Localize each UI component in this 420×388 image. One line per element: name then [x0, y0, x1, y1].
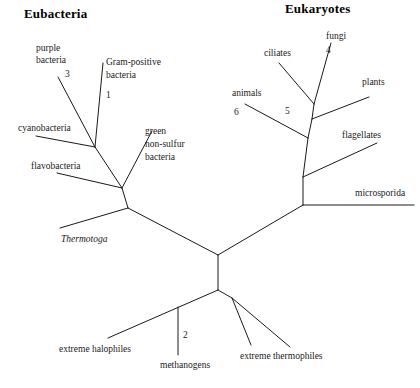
- branch-number-1: 1: [106, 90, 111, 100]
- branch-cyanobacteria: [36, 136, 95, 147]
- branch-thermotoga: [60, 208, 128, 228]
- branch-root-to-eukaryotes: [218, 205, 303, 255]
- branch-number-4: 4: [326, 45, 331, 55]
- branch-number-6: 6: [234, 107, 239, 117]
- label-plants: plants: [362, 77, 385, 89]
- label-animals: animals: [232, 88, 262, 100]
- label-purple-bacteria-line1: purple: [36, 43, 60, 55]
- branch-plants: [312, 97, 369, 119]
- branch-gram-positive: [95, 63, 103, 147]
- branch-animals: [245, 104, 308, 138]
- branch-extreme-thermophiles-b: [232, 298, 290, 347]
- branch-eubacteria-spine-upper: [95, 147, 122, 188]
- label-flavobacteria: flavobacteria: [31, 161, 81, 173]
- branch-archaea-spine: [218, 290, 232, 298]
- branch-extreme-halophiles: [108, 290, 218, 338]
- domain-title-eukaryotes: Eukaryotes: [285, 1, 351, 17]
- label-flagellates: flagellates: [342, 130, 381, 142]
- label-gram-positive-line2: bacteria: [106, 70, 136, 82]
- label-ciliates: ciliates: [264, 48, 291, 60]
- label-purple-bacteria-line2: bacteria: [36, 55, 66, 67]
- phylogenetic-tree-figure: Eubacteria Eukaryotes purple bacteria 3 …: [0, 0, 420, 388]
- label-thermotoga: Thermotoga: [61, 234, 107, 246]
- label-green-nonsulfur-line3: bacteria: [145, 152, 175, 164]
- branch-extreme-thermophiles-a: [232, 298, 251, 345]
- branch-eukaryote-spine-2: [303, 138, 308, 177]
- label-extreme-halophiles: extreme halophiles: [59, 344, 131, 356]
- branch-ciliates: [279, 63, 314, 104]
- branch-eukaryote-spine-4: [312, 104, 314, 119]
- branch-eukaryote-spine-3: [308, 119, 312, 138]
- branch-flavobacteria: [57, 173, 122, 188]
- branch-number-2: 2: [183, 330, 188, 340]
- label-microsporida: microsporida: [355, 188, 405, 200]
- branch-flagellates: [303, 143, 377, 177]
- label-cyanobacteria: cyanobacteria: [18, 123, 71, 135]
- branch-number-3: 3: [65, 69, 70, 79]
- label-extreme-thermophiles: extreme thermophiles: [240, 351, 323, 363]
- label-fungi: fungi: [326, 31, 346, 43]
- label-gram-positive-line1: Gram-positive: [106, 57, 161, 69]
- branch-purple-bacteria: [58, 77, 95, 147]
- branch-root-to-eubacteria: [128, 208, 218, 255]
- domain-title-eubacteria: Eubacteria: [24, 6, 87, 22]
- branch-eubacteria-spine-lower: [122, 188, 128, 208]
- label-green-nonsulfur-line1: green: [145, 126, 166, 138]
- label-methanogens: methanogens: [160, 360, 210, 372]
- label-green-nonsulfur-line2: non-sulfur: [145, 139, 185, 151]
- branch-number-5: 5: [285, 106, 290, 116]
